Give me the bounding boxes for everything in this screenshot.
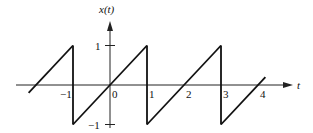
t-axis-label: t [297,79,301,91]
t-axis-ticks: −101234 [60,88,266,100]
x-tick-label: −1 [60,88,72,100]
signal-plot: t x(t) −101234 1−1 [0,0,313,133]
x-tick-label: 4 [260,88,266,100]
y-tick-label: −1 [88,119,100,131]
x-tick-label: 0 [112,88,118,100]
t-axis-arrow-icon [283,82,293,88]
x-tick-label: 2 [186,88,192,100]
signal-ramp-segment [29,46,73,93]
y-tick-label: 1 [95,40,101,52]
x-axis-arrow-icon [107,21,113,31]
y-axis-label: x(t) [98,3,115,16]
x-tick-label: 3 [223,88,229,100]
x-tick-label: 1 [149,88,155,100]
signal-ramp-segment [221,77,265,124]
